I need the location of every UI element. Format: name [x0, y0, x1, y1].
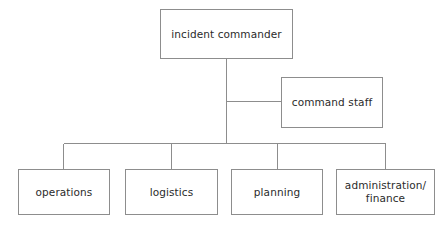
node-incident-commander-label: incident commander: [168, 28, 284, 41]
node-planning-label: planning: [251, 186, 303, 199]
node-logistics-label: logistics: [147, 186, 197, 199]
node-command-staff-label: command staff: [289, 96, 375, 109]
node-command-staff: command staff: [281, 77, 383, 128]
node-administration-finance: administration/ finance: [336, 169, 435, 215]
node-planning: planning: [231, 169, 323, 215]
node-logistics: logistics: [125, 169, 218, 215]
node-incident-commander: incident commander: [160, 9, 293, 59]
node-operations-label: operations: [33, 186, 96, 199]
node-operations: operations: [18, 169, 110, 215]
org-chart: incident commander command staff operati…: [0, 0, 445, 228]
node-administration-finance-label: administration/ finance: [342, 179, 429, 205]
